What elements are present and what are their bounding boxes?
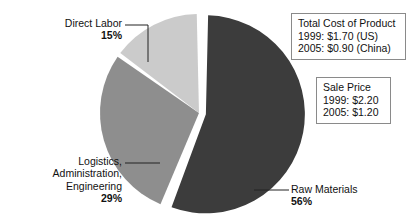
- slice-label-raw-materials: Raw Materials 56%: [291, 183, 358, 208]
- annotation-box-total-cost: Total Cost of Product 1999: $1.70 (US) 2…: [291, 13, 406, 60]
- slice-label-direct-labor: Direct Labor 15%: [18, 17, 122, 42]
- slice-label-logistics-line2: Administration,: [6, 167, 122, 179]
- slice-label-logistics-line3: Engineering: [6, 180, 122, 192]
- slice-label-logistics-line1: Logistics,: [6, 155, 122, 167]
- annotation-box-sale-price: Sale Price 1999: $2.20 2005: $1.20: [316, 77, 391, 124]
- sale-price-title: Sale Price: [323, 81, 384, 94]
- slice-label-raw-materials-name: Raw Materials: [291, 183, 358, 195]
- pie-chart-figure: Direct Labor 15% Logistics, Administrati…: [0, 0, 410, 222]
- total-cost-2005: 2005: $0.90 (China): [298, 42, 399, 55]
- slice-label-raw-materials-percent: 56%: [291, 195, 358, 207]
- slice-label-logistics: Logistics, Administration, Engineering 2…: [6, 155, 122, 205]
- slice-label-direct-labor-name: Direct Labor: [18, 17, 122, 29]
- sale-price-1999: 1999: $2.20: [323, 94, 384, 107]
- slice-label-logistics-percent: 29%: [6, 192, 122, 204]
- slice-label-direct-labor-percent: 15%: [18, 29, 122, 41]
- sale-price-2005: 2005: $1.20: [323, 106, 384, 119]
- total-cost-1999: 1999: $1.70 (US): [298, 30, 399, 43]
- total-cost-title: Total Cost of Product: [298, 17, 399, 30]
